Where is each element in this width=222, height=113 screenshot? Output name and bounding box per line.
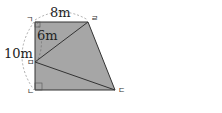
- point-mieum: ㅁ: [27, 59, 34, 67]
- point-digeut: ㄷ: [118, 87, 125, 95]
- label-top-8m: 8m: [50, 6, 71, 19]
- label-segment-6m: 6m: [37, 29, 58, 42]
- point-nieun: ㄴ: [27, 88, 34, 96]
- point-rieul: ㄹ: [91, 15, 98, 23]
- geometry-figure: [0, 0, 222, 113]
- point-giyeok: ㄱ: [26, 16, 33, 24]
